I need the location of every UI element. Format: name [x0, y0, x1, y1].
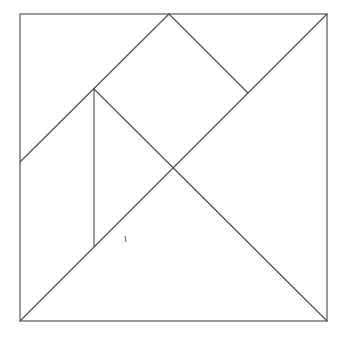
stray-pen-mark — [125, 236, 126, 242]
tangram-segments — [20, 14, 327, 321]
tangram-diagram — [0, 0, 343, 337]
top-mid-to-right-point — [169, 14, 248, 93]
upper-point-to-br-diagonal — [94, 89, 327, 321]
